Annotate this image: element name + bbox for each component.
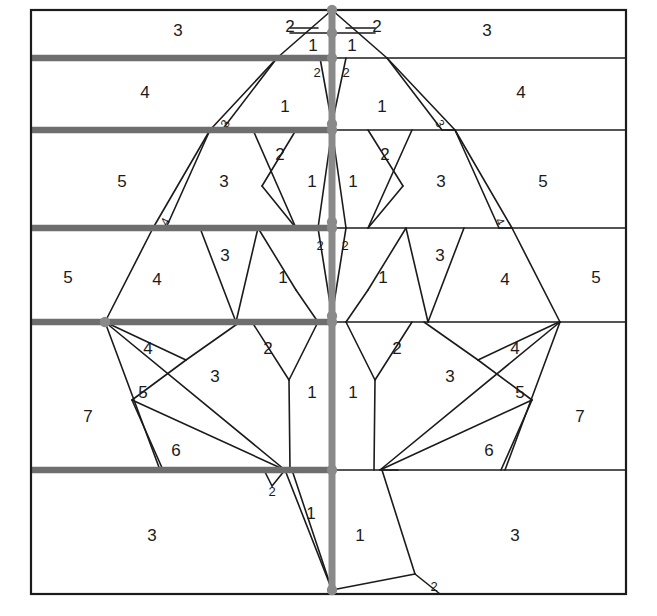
region-label: 4 (500, 270, 509, 289)
region-label: 1 (308, 36, 317, 55)
region-label: 2 (392, 339, 401, 358)
region-label: 5 (138, 383, 147, 402)
region-label: 1 (348, 172, 357, 191)
mesh-node (100, 317, 110, 327)
region-label: 3 (435, 246, 444, 265)
region-label: 5 (538, 172, 547, 191)
region-label: 7 (83, 407, 92, 426)
region-label: 1 (348, 383, 357, 402)
region-label: 4 (152, 270, 161, 289)
region-label: 6 (171, 441, 180, 460)
region-label: 4 (143, 339, 152, 358)
region-label: 3 (220, 246, 229, 265)
region-label: 3 (445, 367, 454, 386)
region-label: 5 (117, 172, 126, 191)
mesh-node (327, 585, 337, 595)
region-label: 3 (219, 172, 228, 191)
leader-label: 2 (285, 17, 294, 36)
mesh-node (327, 5, 337, 15)
region-label: 5 (515, 383, 524, 402)
mesh-node (327, 465, 337, 475)
mesh-node (327, 317, 337, 327)
region-label: 1 (307, 383, 316, 402)
region-label: 2 (316, 238, 323, 253)
mesh-node (327, 28, 337, 38)
region-label: 1 (306, 504, 315, 523)
region-label: 3 (173, 21, 182, 40)
mesh-node (327, 223, 337, 233)
mesh-edge (374, 380, 375, 470)
region-label: 1 (280, 97, 289, 116)
region-label: 3 (147, 526, 156, 545)
region-label: 4 (510, 339, 519, 358)
region-label: 2 (268, 484, 275, 499)
region-label: 5 (63, 268, 72, 287)
diagram-canvas: 3311441122335533221144554433112277445566… (0, 0, 657, 616)
region-label: 4 (140, 83, 149, 102)
mesh-node (327, 53, 337, 63)
region-label: 2 (275, 145, 284, 164)
region-label: 2 (430, 579, 437, 594)
region-label: 2 (380, 145, 389, 164)
region-label: 1 (307, 172, 316, 191)
region-label: 2 (313, 65, 320, 80)
region-label: 7 (575, 407, 584, 426)
region-label: 2 (341, 238, 348, 253)
mesh-diagram: 3311441122335533221144554433112277445566… (0, 0, 657, 616)
region-label: 1 (278, 268, 287, 287)
region-label: 3 (436, 172, 445, 191)
region-label: 1 (378, 268, 387, 287)
region-label: 1 (355, 526, 364, 545)
region-label: 4 (516, 83, 525, 102)
mesh-node (327, 125, 337, 135)
region-label: 2 (342, 65, 349, 80)
leader-label: 2 (372, 17, 381, 36)
region-label: 3 (482, 21, 491, 40)
region-label: 3 (210, 367, 219, 386)
mesh-edge (289, 380, 290, 470)
region-label: 3 (510, 526, 519, 545)
region-label: 5 (591, 268, 600, 287)
region-label: 1 (347, 36, 356, 55)
region-label: 6 (484, 441, 493, 460)
region-label: 1 (377, 97, 386, 116)
region-label: 2 (263, 339, 272, 358)
